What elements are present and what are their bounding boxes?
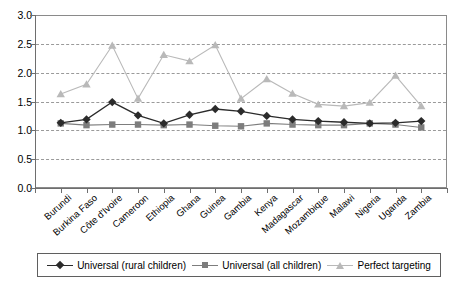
y-axis-tick-label: 0.5	[4, 154, 32, 164]
legend-label: Perfect targeting	[357, 260, 430, 271]
x-axis-tick	[421, 188, 422, 193]
x-axis-tick	[396, 188, 397, 193]
gridline	[36, 73, 446, 74]
y-axis-tick-label: 1.0	[4, 125, 32, 135]
x-axis-category-text: Malawi	[327, 192, 356, 220]
y-axis-tick	[30, 188, 36, 189]
plot-area	[35, 15, 447, 188]
x-axis-tick	[61, 188, 62, 193]
chart-legend: Universal (rural children)Universal (all…	[37, 253, 441, 277]
line-chart: 0.00.51.01.52.02.53.0 BurundiBurkina Fas…	[0, 0, 467, 283]
gridline	[36, 159, 446, 160]
legend-item[interactable]: Perfect targeting	[327, 260, 430, 271]
y-axis-tick	[30, 102, 36, 103]
y-axis-tick-label: 1.5	[4, 97, 32, 107]
y-axis-tick-label: 0.0	[4, 183, 32, 193]
x-axis-category-label: Zambia	[403, 192, 434, 221]
y-axis-tick	[30, 73, 36, 74]
x-axis-tick	[190, 188, 191, 193]
x-axis-tick	[318, 188, 319, 193]
gridline	[36, 130, 446, 131]
legend-swatch-triangle-icon	[327, 260, 353, 270]
x-axis-tick	[241, 188, 242, 193]
y-axis-tick	[30, 44, 36, 45]
y-axis-tick-label: 2.5	[4, 39, 32, 49]
gridline	[36, 102, 446, 103]
y-axis-tick-label: 2.0	[4, 68, 32, 78]
legend-item[interactable]: Universal (all children)	[192, 260, 321, 271]
x-axis-category-label: Uganda	[376, 192, 408, 222]
legend-item[interactable]: Universal (rural children)	[47, 260, 186, 271]
x-axis-tick	[164, 188, 165, 193]
y-axis-labels: 0.00.51.01.52.02.53.0	[0, 0, 32, 283]
x-axis-category-text: Ethiopia	[143, 192, 176, 223]
x-axis-category-text: Ghana	[173, 192, 202, 219]
x-axis-tick	[344, 188, 345, 193]
legend-swatch-square-icon	[192, 260, 218, 270]
x-axis-tick	[87, 188, 88, 193]
x-axis-tick	[215, 188, 216, 193]
y-axis-tick	[30, 15, 36, 16]
x-axis-tick	[138, 188, 139, 193]
x-axis-tick	[370, 188, 371, 193]
y-axis-tick	[30, 159, 36, 160]
y-axis-tick-label: 3.0	[4, 10, 32, 20]
x-axis-category-label: Gambia	[221, 192, 253, 222]
y-axis-tick	[30, 130, 36, 131]
legend-label: Universal (rural children)	[77, 260, 186, 271]
x-axis-tick	[267, 188, 268, 193]
x-axis-category-label: Malawi	[327, 192, 356, 220]
x-axis-category-text: Zambia	[403, 192, 434, 221]
x-axis-category-text: Gambia	[221, 192, 253, 222]
x-axis-tick	[293, 188, 294, 193]
x-axis-tick	[447, 188, 448, 193]
legend-label: Universal (all children)	[222, 260, 321, 271]
x-axis-category-label: Ghana	[173, 192, 202, 219]
gridline	[36, 44, 446, 45]
legend-swatch-diamond-icon	[47, 260, 73, 270]
x-axis-tick	[112, 188, 113, 193]
x-axis-category-label: Ethiopia	[143, 192, 176, 223]
x-axis-category-text: Uganda	[376, 192, 408, 222]
